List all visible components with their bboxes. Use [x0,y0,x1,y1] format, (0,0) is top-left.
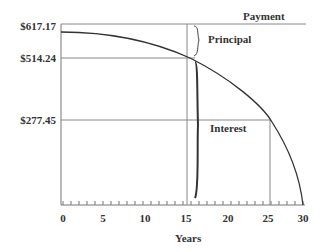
x-tick-30: 30 [298,212,309,224]
y-tick-514: $514.24 [20,52,56,64]
interest-brace [195,62,198,198]
x-tick-25: 25 [263,212,274,224]
interest-label: Interest [210,122,246,134]
principal-brace [194,26,199,56]
x-tick-20: 20 [223,212,234,224]
chart-canvas [0,0,326,252]
amortization-chart: Payment Principal Interest $617.17 $514.… [0,0,326,252]
x-axis-ticks [63,201,303,205]
x-tick-0: 0 [60,212,66,224]
x-tick-10: 10 [140,212,151,224]
x-tick-15: 15 [181,212,192,224]
x-tick-5: 5 [100,212,106,224]
y-tick-277: $277.45 [20,114,56,126]
payment-label: Payment [243,10,285,22]
y-tick-617: $617.17 [20,20,56,32]
principal-label: Principal [208,33,251,45]
x-axis-label: Years [175,232,201,244]
